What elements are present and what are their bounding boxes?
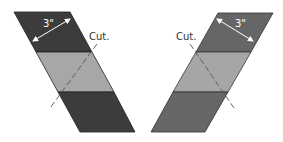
right-dimension-label: 3": [235, 18, 246, 29]
left-middle-segment: [36, 52, 114, 92]
left-strip: 3" Cut.: [14, 12, 135, 132]
right-middle-segment: [173, 52, 251, 92]
left-bottom-segment: [58, 92, 135, 132]
right-strip: 3" Cut.: [151, 13, 273, 132]
right-cut-label: Cut.: [176, 31, 196, 42]
right-bottom-segment: [151, 92, 228, 132]
left-cut-label: Cut.: [89, 31, 109, 42]
diagram-canvas: 3" Cut. 3" Cut.: [0, 0, 283, 142]
left-dimension-label: 3": [43, 18, 54, 29]
